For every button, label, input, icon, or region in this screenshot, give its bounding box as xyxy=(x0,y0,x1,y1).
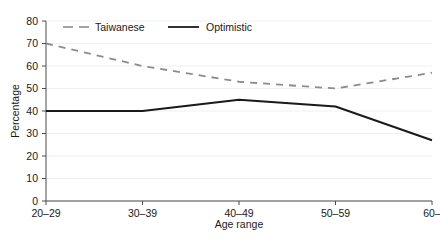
y-axis-tick-labels: 01020304050607080 xyxy=(26,15,38,207)
line-chart: 01020304050607080 20–2930–3940–4950–5960… xyxy=(0,0,440,241)
y-tick-label: 60 xyxy=(26,60,38,72)
x-axis-title: Age range xyxy=(215,218,264,230)
y-tick-label: 10 xyxy=(26,172,38,184)
y-tick-label: 0 xyxy=(32,195,38,207)
legend-label-optimistic: Optimistic xyxy=(206,21,252,33)
x-tick-label: 60– xyxy=(423,207,440,219)
y-tick-label: 50 xyxy=(26,82,38,94)
chart-figure: 01020304050607080 20–2930–3940–4950–5960… xyxy=(0,0,440,241)
y-axis-title: Percentage xyxy=(9,84,21,138)
y-tick-label: 70 xyxy=(26,37,38,49)
y-tick-label: 80 xyxy=(26,15,38,27)
legend-label-taiwanese: Taiwanese xyxy=(95,21,145,33)
y-tick-label: 30 xyxy=(26,127,38,139)
x-tick-label: 20–29 xyxy=(31,207,60,219)
y-tick-label: 20 xyxy=(26,150,38,162)
x-tick-label: 30–39 xyxy=(128,207,157,219)
x-tick-label: 50–59 xyxy=(321,207,350,219)
y-tick-label: 40 xyxy=(26,105,38,117)
